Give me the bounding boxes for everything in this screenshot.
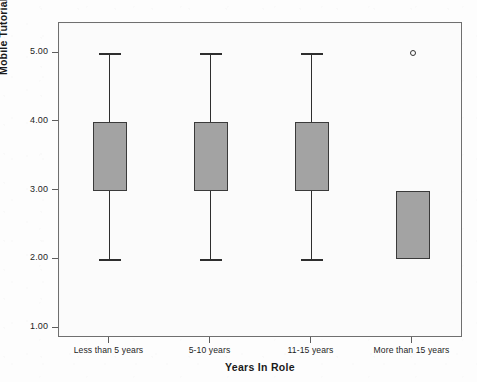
- whisker-lower: [311, 191, 313, 260]
- x-axis-tick-mark: [209, 337, 210, 343]
- whisker-lower: [109, 191, 111, 260]
- box-iqr: [194, 122, 228, 191]
- y-axis-tick-label: 2.00: [12, 252, 48, 262]
- whisker-cap-lower: [301, 259, 323, 261]
- x-axis-tick-mark: [310, 337, 311, 343]
- box-iqr: [295, 122, 329, 191]
- y-axis-tick-label: 3.00: [12, 184, 48, 194]
- whisker-upper: [311, 53, 313, 122]
- whisker-lower: [210, 191, 212, 260]
- whisker-cap-upper: [301, 53, 323, 55]
- x-axis-tick-label: More than 15 years: [352, 345, 472, 355]
- whisker-cap-upper: [99, 53, 121, 55]
- whisker-upper: [210, 53, 212, 122]
- boxplot-figure: Mobile Tutorial Usefulness 5.004.003.002…: [0, 0, 477, 382]
- whisker-cap-lower: [99, 259, 121, 261]
- x-axis-title: Years In Role: [58, 361, 462, 373]
- y-axis-title: Mobile Tutorial Usefulness: [0, 0, 9, 96]
- whisker-cap-lower: [200, 259, 222, 261]
- outlier-marker: [410, 50, 416, 56]
- box-iqr: [396, 191, 430, 260]
- whisker-cap-upper: [200, 53, 222, 55]
- x-axis-tick-mark: [108, 337, 109, 343]
- y-axis-tick-label: 5.00: [12, 46, 48, 56]
- x-axis-tick-mark: [411, 337, 412, 343]
- y-axis-tick-label: 4.00: [12, 115, 48, 125]
- whisker-upper: [109, 53, 111, 122]
- y-axis-tick-label: 1.00: [12, 321, 48, 331]
- box-iqr: [93, 122, 127, 191]
- plot-area: [58, 22, 462, 337]
